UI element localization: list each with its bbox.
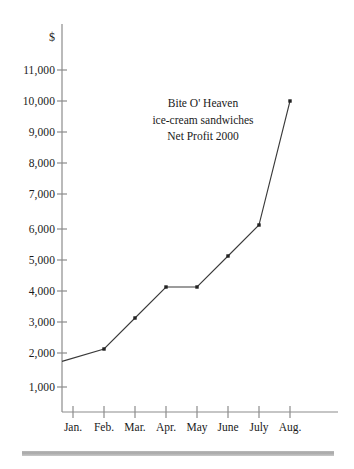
data-point-feb (102, 347, 105, 350)
data-point-june (226, 254, 229, 257)
chart-title-line-3: Net Profit 2000 (118, 128, 288, 145)
x-axis-labels: Jan. Feb. Mar. Apr. May June July Aug. (0, 422, 354, 442)
chart-title-line-1: Bite O' Heaven (118, 95, 288, 112)
line-plot (0, 0, 354, 440)
data-point-july (257, 223, 260, 226)
x-tick-label-aug: Aug. (267, 422, 313, 434)
footer-divider (22, 451, 334, 456)
chart-figure: $ 11,000 10,000 9,000 8,000 7,000 6,000 … (0, 0, 354, 469)
data-point-may (195, 285, 198, 288)
chart-title-line-2: ice-cream sandwiches (118, 112, 288, 129)
data-point-apr (164, 285, 167, 288)
chart-title: Bite O' Heaven ice-cream sandwiches Net … (118, 95, 288, 145)
data-point-mar (133, 316, 136, 319)
data-point-aug (288, 99, 291, 102)
